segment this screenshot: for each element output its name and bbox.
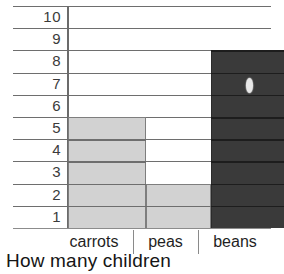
bar-peas[interactable] — [146, 184, 211, 228]
bars-layer — [68, 6, 271, 228]
y-tick-3: 3 — [13, 161, 61, 183]
y-tick-6: 6 — [13, 95, 61, 117]
category-label-beans: beans — [198, 229, 272, 255]
bar-chart-figure: 10 9 8 7 6 5 4 3 2 1 — [0, 0, 284, 274]
bar-beans[interactable] — [211, 50, 284, 228]
y-tick-5: 5 — [13, 117, 61, 139]
y-tick-2: 2 — [13, 184, 61, 206]
y-tick-7: 7 — [13, 73, 61, 95]
y-tick-10: 10 — [13, 6, 61, 28]
plot-area: 10 9 8 7 6 5 4 3 2 1 — [13, 6, 271, 228]
y-tick-8: 8 — [13, 50, 61, 72]
y-tick-1: 1 — [13, 206, 61, 228]
y-tick-9: 9 — [13, 28, 61, 50]
chart-caption: How many children — [6, 250, 171, 272]
bar-carrots[interactable] — [68, 117, 146, 228]
y-tick-4: 4 — [13, 139, 61, 161]
